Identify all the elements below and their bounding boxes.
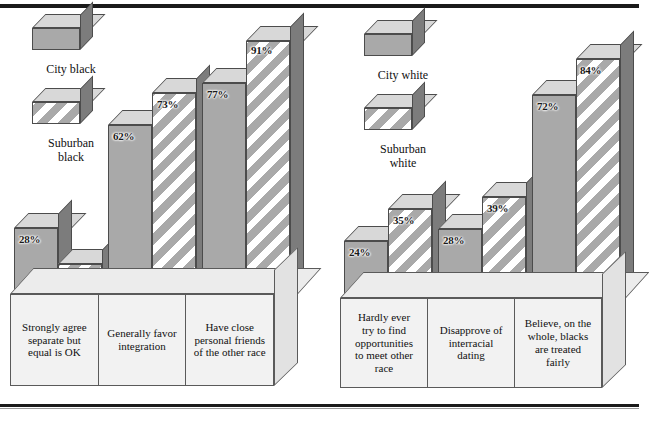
legend-swatch-side	[80, 76, 93, 124]
legend-swatch-front	[364, 34, 412, 56]
value-label: 39%	[487, 202, 508, 214]
legend-label-suburban-black: Suburban black	[20, 136, 122, 165]
category-label-5: Disapprove of interracial dating	[428, 299, 515, 387]
platform-right: Hardly ever try to find opportunities to…	[340, 272, 640, 396]
bottom-divider-rule	[0, 404, 639, 407]
platform-side-face	[274, 247, 298, 386]
platform-front-face: Strongly agree separate but equal is OK …	[10, 294, 274, 386]
value-label: 28%	[443, 234, 464, 246]
value-label: 24%	[349, 246, 370, 258]
legend-swatch-top-face	[364, 94, 438, 108]
bar-front-face	[532, 95, 576, 300]
legend-label-city-black: City black	[20, 62, 122, 76]
category-label-2: Generally favor integration	[99, 295, 187, 385]
legend-item-city-white: City white	[364, 20, 442, 66]
legend-swatch-top-face	[32, 14, 106, 28]
legend-swatch-front	[364, 108, 412, 130]
category-label-6: Believe, on the whole, blacks are treate…	[515, 299, 601, 387]
legend-swatch-side	[412, 8, 425, 56]
bar-top-face	[246, 26, 318, 41]
legend-swatch-side	[412, 82, 425, 130]
bar-top-face	[388, 194, 460, 209]
platform-side-face	[602, 251, 626, 388]
value-label: 62%	[113, 130, 134, 142]
value-label: 77%	[207, 88, 228, 100]
legend-swatch-top-face	[32, 88, 106, 102]
legend-label-suburban-white: Suburban white	[352, 142, 454, 171]
legend-swatch-front	[32, 102, 80, 124]
value-label: 73%	[157, 98, 178, 110]
bar-top-face	[14, 213, 86, 228]
value-label: 28%	[19, 233, 40, 245]
category-label-4: Hardly ever try to find opportunities to…	[341, 299, 428, 387]
category-label-3: Have close personal friends of the other…	[186, 295, 273, 385]
top-divider-rule	[0, 4, 639, 8]
bar-front-face	[202, 83, 246, 299]
legend-swatch-side	[80, 2, 93, 50]
legend-swatch-top-face	[364, 20, 438, 34]
legend-swatch-front	[32, 28, 80, 50]
bar-suburban-black-3: 91%	[246, 26, 308, 299]
value-label: 72%	[537, 100, 558, 112]
category-label-1: Strongly agree separate but equal is OK	[11, 295, 99, 385]
value-label: 84%	[580, 64, 601, 76]
platform-front-face: Hardly ever try to find opportunities to…	[340, 298, 602, 388]
value-label: 35%	[393, 214, 414, 226]
legend-label-city-white: City white	[352, 68, 454, 82]
bar-suburban-white-3: 84%	[576, 44, 638, 300]
bottom-divider-rule-shadow	[0, 408, 639, 409]
platform-left: Strongly agree separate but equal is OK …	[10, 268, 310, 396]
legend-item-suburban-white: Suburban white	[364, 94, 442, 140]
value-label: 91%	[251, 44, 272, 56]
legend-item-city-black: City black	[32, 14, 110, 60]
legend-item-suburban-black: Suburban black	[32, 88, 110, 134]
